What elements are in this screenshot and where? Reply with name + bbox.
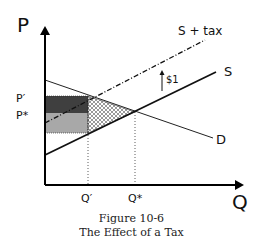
demand-label: D [216,132,226,147]
p-prime-label: P′ [16,92,26,105]
tax-arrow-head-icon [160,70,165,75]
q-star-label: Q* [128,192,143,205]
y-axis-label: P [17,13,29,37]
tax-amount-label: $1 [166,74,179,85]
x-axis-label: Q [232,190,248,214]
figure-number: Figure 10-6 [0,212,263,226]
x-axis-arrow-icon [235,180,244,190]
p-star-label: P* [16,109,29,122]
y-axis-arrow-icon [40,26,50,35]
supply-tax-label: S + tax [178,24,222,38]
producer-tax-burden-area [45,113,88,133]
q-prime-label: Q′ [81,192,93,205]
supply-label: S [224,64,232,79]
figure-title: The Effect of a Tax [0,226,263,240]
